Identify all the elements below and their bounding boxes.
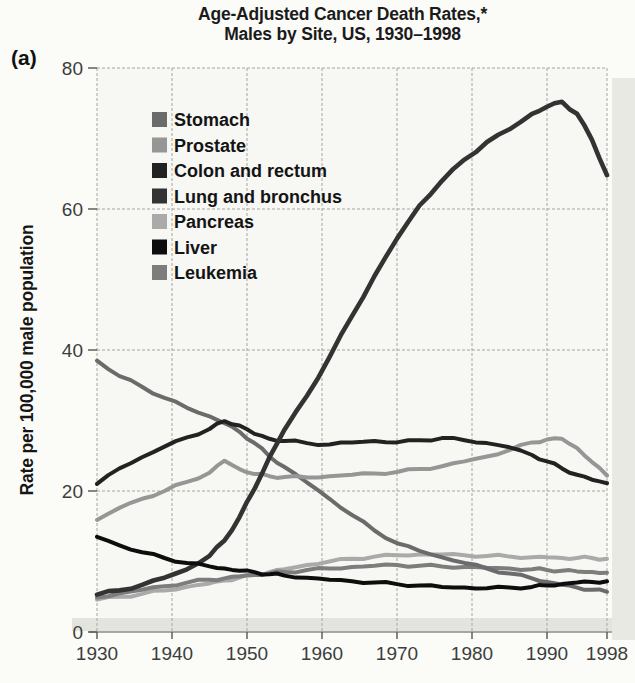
legend-swatch-leukemia: [152, 265, 167, 280]
legend-label-leukemia: Leukemia: [174, 263, 258, 283]
y-tick-label: 0: [72, 622, 83, 643]
legend-item-lung-and-bronchus: Lung and bronchus: [152, 187, 342, 207]
legend-item-colon-and-rectum: Colon and rectum: [152, 161, 327, 181]
x-tick-label: 1980: [451, 643, 493, 664]
legend-label-stomach: Stomach: [174, 110, 250, 130]
x-tick-label: 1960: [301, 643, 343, 664]
x-tick-label: 1990: [526, 643, 568, 664]
legend-label-prostate: Prostate: [174, 136, 246, 156]
scan-shadow-band: [72, 618, 612, 631]
x-tick-label: 1950: [226, 643, 268, 664]
page-edge-shading: [612, 78, 635, 640]
legend-swatch-liver: [152, 240, 167, 255]
y-tick-label: 80: [62, 58, 83, 79]
legend-swatch-lung-and-bronchus: [152, 189, 167, 204]
legend-swatch-pancreas: [152, 214, 167, 229]
legend-swatch-stomach: [152, 112, 167, 127]
cancer-death-rates-line-chart: 1930194019501960197019801990199802040608…: [0, 0, 635, 683]
x-tick-label: 1970: [376, 643, 418, 664]
legend-swatch-colon-and-rectum: [152, 163, 167, 178]
legend-label-pancreas: Pancreas: [174, 212, 254, 232]
x-tick-label: 1998: [586, 643, 628, 664]
x-tick-label: 1930: [76, 643, 118, 664]
legend-label-liver: Liver: [174, 238, 217, 258]
x-tick-label: 1940: [151, 643, 193, 664]
legend-swatch-prostate: [152, 138, 167, 153]
y-tick-label: 60: [62, 199, 83, 220]
y-tick-label: 40: [62, 340, 83, 361]
legend-label-lung-and-bronchus: Lung and bronchus: [174, 187, 342, 207]
legend-label-colon-and-rectum: Colon and rectum: [174, 161, 327, 181]
y-tick-label: 20: [62, 481, 83, 502]
legend-item-liver: Liver: [152, 238, 217, 258]
legend-item-stomach: Stomach: [152, 110, 250, 130]
legend-item-prostate: Prostate: [152, 136, 246, 156]
